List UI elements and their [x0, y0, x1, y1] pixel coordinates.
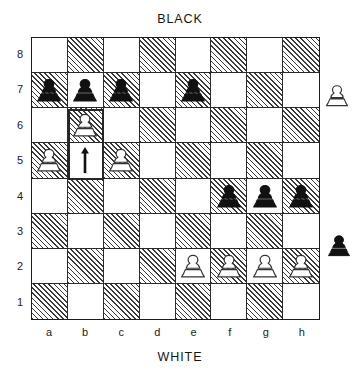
board-square-h3[interactable]: [283, 214, 319, 249]
board-square-a2[interactable]: [32, 249, 68, 284]
board-square-c6[interactable]: [104, 108, 140, 143]
board-square-g3[interactable]: [247, 214, 283, 249]
board-square-c8[interactable]: [104, 38, 140, 73]
file-label-a: a: [31, 325, 67, 340]
board-square-e1[interactable]: [176, 284, 212, 319]
white-pawn-icon: [180, 252, 206, 280]
board-square-e8[interactable]: [176, 38, 212, 73]
board-square-g5[interactable]: [247, 143, 283, 178]
file-label-b: b: [67, 325, 103, 340]
rank-label-1: 1: [13, 285, 27, 320]
rank-label-3: 3: [13, 214, 27, 249]
board-square-e7[interactable]: [176, 73, 212, 108]
board-square-c1[interactable]: [104, 284, 140, 319]
board-square-g2[interactable]: [247, 249, 283, 284]
board-square-b2[interactable]: [68, 249, 104, 284]
board-square-h6[interactable]: [283, 108, 319, 143]
white-pawn-icon: [108, 146, 134, 174]
chess-board[interactable]: [31, 37, 320, 320]
white-pawn-icon: [72, 111, 98, 139]
white-side-label: WHITE: [0, 350, 360, 364]
board-square-f3[interactable]: [211, 214, 247, 249]
board-square-f5[interactable]: [211, 143, 247, 178]
board-square-d5[interactable]: [140, 143, 176, 178]
board-square-f1[interactable]: [211, 284, 247, 319]
file-label-e: e: [176, 325, 212, 340]
board-square-a1[interactable]: [32, 284, 68, 319]
board-square-d2[interactable]: [140, 249, 176, 284]
rank-label-4: 4: [13, 179, 27, 214]
rank-label-2: 2: [13, 249, 27, 284]
rank-label-8: 8: [13, 37, 27, 72]
file-label-g: g: [248, 325, 284, 340]
white-pawn-icon: [252, 252, 278, 280]
black-pawn-icon: [216, 182, 242, 210]
board-square-b3[interactable]: [68, 214, 104, 249]
black-pawn-icon: [36, 76, 62, 104]
board-square-h8[interactable]: [283, 38, 319, 73]
board-square-f8[interactable]: [211, 38, 247, 73]
board-square-f2[interactable]: [211, 249, 247, 284]
board-square-c7[interactable]: [104, 73, 140, 108]
board-square-g7[interactable]: [247, 73, 283, 108]
board-square-d8[interactable]: [140, 38, 176, 73]
board-square-h7[interactable]: [283, 73, 319, 108]
board-square-a4[interactable]: [32, 179, 68, 214]
board-square-e5[interactable]: [176, 143, 212, 178]
board-square-c3[interactable]: [104, 214, 140, 249]
board-square-e4[interactable]: [176, 179, 212, 214]
board-square-b7[interactable]: [68, 73, 104, 108]
board-square-e6[interactable]: [176, 108, 212, 143]
file-label-c: c: [103, 325, 139, 340]
board-square-c2[interactable]: [104, 249, 140, 284]
black-pawn-icon: [108, 76, 134, 104]
file-label-f: f: [212, 325, 248, 340]
board-square-c5[interactable]: [104, 143, 140, 178]
white-pawn-icon: [36, 146, 62, 174]
black-pawn-icon: [180, 76, 206, 104]
board-square-b8[interactable]: [68, 38, 104, 73]
black-side-label: BLACK: [0, 12, 360, 26]
board-square-f4[interactable]: [211, 179, 247, 214]
board-square-b1[interactable]: [68, 284, 104, 319]
rank-label-7: 7: [13, 72, 27, 107]
board-square-b5[interactable]: [68, 143, 104, 178]
board-square-g1[interactable]: [247, 284, 283, 319]
board-square-d7[interactable]: [140, 73, 176, 108]
rank-label-5: 5: [13, 143, 27, 178]
board-square-a5[interactable]: [32, 143, 68, 178]
board-square-a3[interactable]: [32, 214, 68, 249]
board-square-g8[interactable]: [247, 38, 283, 73]
black-pawn-icon: [72, 76, 98, 104]
board-square-g6[interactable]: [247, 108, 283, 143]
captured-white-pawn-icon: [325, 82, 349, 109]
board-square-e2[interactable]: [176, 249, 212, 284]
chess-diagram: BLACK 87654321 abcdefgh WHITE: [0, 0, 360, 379]
board-square-d6[interactable]: [140, 108, 176, 143]
board-square-a8[interactable]: [32, 38, 68, 73]
board-square-b6[interactable]: [68, 108, 104, 143]
board-grid: [32, 38, 319, 319]
up-arrow-icon: [77, 146, 93, 174]
board-square-b4[interactable]: [68, 179, 104, 214]
board-square-d3[interactable]: [140, 214, 176, 249]
board-square-h5[interactable]: [283, 143, 319, 178]
black-pawn-icon: [252, 182, 278, 210]
captured-black-pawn-icon: [327, 232, 351, 259]
board-square-h2[interactable]: [283, 249, 319, 284]
board-square-h1[interactable]: [283, 284, 319, 319]
board-square-f7[interactable]: [211, 73, 247, 108]
board-square-d1[interactable]: [140, 284, 176, 319]
board-square-a6[interactable]: [32, 108, 68, 143]
board-square-h4[interactable]: [283, 179, 319, 214]
board-square-g4[interactable]: [247, 179, 283, 214]
board-square-c4[interactable]: [104, 179, 140, 214]
white-pawn-icon: [216, 252, 242, 280]
board-square-d4[interactable]: [140, 179, 176, 214]
rank-label-6: 6: [13, 108, 27, 143]
white-pawn-icon: [288, 252, 314, 280]
file-label-d: d: [139, 325, 175, 340]
board-square-a7[interactable]: [32, 73, 68, 108]
board-square-f6[interactable]: [211, 108, 247, 143]
board-square-e3[interactable]: [176, 214, 212, 249]
